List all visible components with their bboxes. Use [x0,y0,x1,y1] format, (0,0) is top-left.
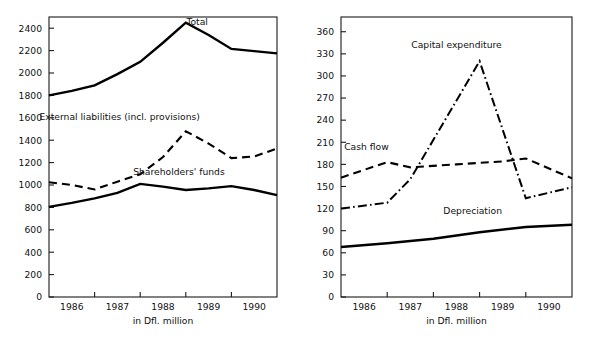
x-tick-label: 1990 [537,301,561,312]
series-label-total: Total [185,16,207,27]
series-label-depreciation: Depreciation [443,205,502,216]
series-line-depreciation [341,225,572,247]
y-tick-label: 60 [322,247,334,258]
plot-frame [341,17,572,297]
y-tick-label: 800 [24,202,42,213]
y-tick-label: 1400 [19,135,43,146]
x-axis-title: in Dfl. million [426,315,487,326]
y-tick-label: 1800 [19,90,43,101]
figure-root: 0200400600800100012001400160018002000220… [0,0,596,361]
x-tick-label: 1989 [491,301,515,312]
series-line-external-liabilities-incl-provisions [49,131,277,189]
y-tick-label: 2400 [19,23,43,34]
balance-sheet-line-chart: 0200400600800100012001400160018002000220… [0,0,298,361]
series-label-capital-expenditure: Capital expenditure [411,39,502,50]
x-tick-label: 1990 [243,301,267,312]
y-tick-label: 400 [24,247,42,258]
x-tick-label: 1987 [399,301,423,312]
y-tick-label: 90 [322,225,334,236]
x-tick-label: 1986 [352,301,376,312]
y-tick-label: 180 [316,159,334,170]
series-label-external-liabilities-incl-provisions: External liabilities (incl. provisions) [40,111,200,122]
chart-panel-cash-flow: 0306090120150180210240270300330360198619… [298,0,596,361]
y-tick-label: 1200 [19,157,43,168]
y-tick-label: 360 [316,26,334,37]
cash-flow-line-chart: 0306090120150180210240270300330360198619… [298,0,596,361]
series-line-capital-expenditure [341,61,572,208]
y-tick-label: 270 [316,92,334,103]
y-tick-label: 2200 [19,45,43,56]
y-tick-label: 150 [316,181,334,192]
x-tick-label: 1986 [60,301,84,312]
x-tick-label: 1989 [197,301,221,312]
series-line-total [49,23,277,96]
chart-panel-balance-sheet: 0200400600800100012001400160018002000220… [0,0,298,361]
series-line-cash-flow [341,158,572,178]
y-tick-label: 240 [316,114,334,125]
y-tick-label: 210 [316,137,334,148]
x-tick-label: 1987 [106,301,130,312]
y-tick-label: 1000 [19,179,43,190]
y-tick-label: 120 [316,203,334,214]
y-tick-label: 300 [316,70,334,81]
y-tick-label: 330 [316,48,334,59]
y-tick-label: 200 [24,269,42,280]
y-tick-label: 30 [322,269,334,280]
x-axis-title: in Dfl. million [133,315,194,326]
y-tick-label: 0 [36,291,42,302]
series-label-cash-flow: Cash flow [344,141,389,152]
x-tick-label: 1988 [151,301,175,312]
y-tick-label: 2000 [19,67,43,78]
y-tick-label: 600 [24,224,42,235]
x-tick-label: 1988 [445,301,469,312]
y-tick-label: 0 [328,291,334,302]
series-line-shareholders-funds [49,184,277,207]
series-label-shareholders-funds: Shareholders' funds [133,166,225,177]
